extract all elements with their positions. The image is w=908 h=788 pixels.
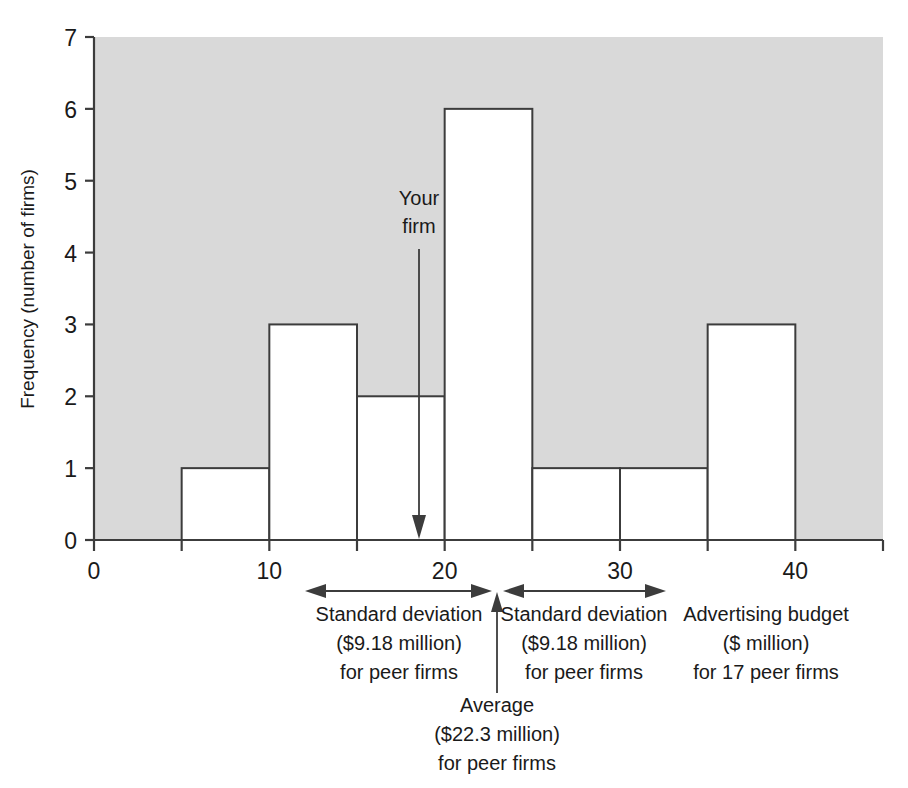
std-dev-right-caption: Standard deviation ($9.18 million) for p… [501, 603, 668, 683]
histogram-bar [532, 468, 620, 540]
y-axis-tick-label: 0 [64, 528, 77, 554]
std-dev-right-line1: Standard deviation [501, 603, 668, 625]
average-line2: ($22.3 million) [434, 723, 560, 745]
x-axis-tick-label: 40 [783, 558, 809, 584]
your-firm-label-line2: firm [402, 215, 435, 237]
std-dev-left-line3: for peer firms [340, 661, 458, 683]
y-axis-tick-label: 7 [64, 25, 77, 51]
x-axis-caption-line3: for 17 peer firms [693, 661, 839, 683]
histogram-bar [182, 468, 270, 540]
average-line3: for peer firms [438, 752, 556, 774]
x-axis-tick-label: 0 [88, 558, 101, 584]
x-axis-caption-line2: ($ million) [723, 632, 810, 654]
average-caption: Average ($22.3 million) for peer firms [434, 694, 560, 774]
x-axis-tick-labels: 010203040 [88, 558, 809, 584]
histogram-bar [620, 468, 708, 540]
y-axis-tick-label: 4 [64, 241, 77, 267]
y-axis-ticks [85, 37, 94, 540]
std-dev-right-line2: ($9.18 million) [521, 632, 647, 654]
x-axis-tick-label: 20 [432, 558, 458, 584]
std-dev-left-arrow [305, 584, 492, 598]
histogram-bar [445, 109, 533, 540]
y-axis-tick-labels: 01234567 [64, 25, 77, 554]
x-axis-tick-label: 10 [257, 558, 283, 584]
y-axis-tick-label: 1 [64, 456, 77, 482]
std-dev-right-arrow-head-start [503, 584, 524, 598]
std-dev-left-line2: ($9.18 million) [336, 632, 462, 654]
y-axis-title: Frequency (number of firms) [17, 169, 38, 409]
y-axis-tick-label: 6 [64, 97, 77, 123]
average-line1: Average [460, 694, 534, 716]
std-dev-left-arrow-head-start [305, 584, 326, 598]
histogram-bar [269, 324, 357, 540]
x-axis-tick-label: 30 [607, 558, 633, 584]
std-dev-right-line3: for peer firms [525, 661, 643, 683]
x-axis-ticks [94, 540, 883, 551]
std-dev-right-arrow-head-end [645, 584, 666, 598]
x-axis-caption: Advertising budget ($ million) for 17 pe… [683, 603, 849, 683]
std-dev-left-line1: Standard deviation [316, 603, 483, 625]
x-axis-caption-line1: Advertising budget [683, 603, 849, 625]
y-axis-tick-label: 2 [64, 384, 77, 410]
y-axis-tick-label: 3 [64, 312, 77, 338]
histogram-bar [357, 396, 445, 540]
histogram-bar [708, 324, 796, 540]
std-dev-left-caption: Standard deviation ($9.18 million) for p… [316, 603, 483, 683]
y-axis-tick-label: 5 [64, 169, 77, 195]
your-firm-label-line1: Your [399, 187, 440, 209]
histogram-figure: 01234567 010203040 Frequency (number of … [0, 0, 908, 788]
histogram-svg: 01234567 010203040 Frequency (number of … [0, 0, 908, 788]
std-dev-left-arrow-head-end [471, 584, 492, 598]
std-dev-right-arrow [503, 584, 666, 598]
